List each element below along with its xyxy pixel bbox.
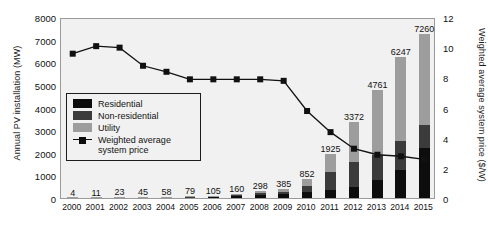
- x-tick-2003: 2003: [132, 202, 151, 212]
- y-tick-right: 2: [443, 163, 465, 174]
- bar-value-label: 11: [91, 188, 100, 198]
- bar-value-label: 385: [276, 179, 291, 189]
- bar-segment-non-residential: [208, 196, 219, 197]
- y-tick-left: 7000: [22, 35, 56, 46]
- bar-value-label: 45: [138, 187, 148, 197]
- legend-swatch-icon: [73, 123, 92, 132]
- bar-segment-utility: [372, 90, 383, 155]
- bar-segment-non-residential: [349, 162, 360, 187]
- y-axis-left-ticks: 010002000300040005000600070008000: [16, 0, 56, 236]
- x-tick-2004: 2004: [156, 202, 175, 212]
- x-tick-2001: 2001: [86, 202, 105, 212]
- bar-value-label: 6247: [391, 47, 411, 57]
- bar-2010: [302, 179, 313, 198]
- bar-segment-non-residential: [372, 155, 383, 180]
- legend-label: Utility: [98, 123, 120, 133]
- y-tick-left: 3000: [22, 126, 56, 137]
- bar-segment-residential: [395, 170, 406, 198]
- bar-segment-non-residential: [278, 192, 289, 195]
- legend-item-2: Utility: [73, 123, 195, 133]
- x-tick-2015: 2015: [414, 202, 433, 212]
- y-axis-right-ticks: 024681012: [443, 0, 469, 236]
- bar-segment-utility: [395, 57, 406, 141]
- x-tick-2007: 2007: [226, 202, 245, 212]
- y-tick-left: 2000: [22, 148, 56, 159]
- bar-segment-utility: [278, 189, 289, 191]
- legend-label: Weighted average system price: [98, 135, 195, 155]
- y-axis-right-title: Weighted average system price ($/W): [477, 20, 487, 190]
- legend-item-3: Weighted average system price: [73, 135, 195, 155]
- bar-value-label: 4: [70, 188, 75, 198]
- bar-value-label: 105: [206, 186, 221, 196]
- bar-segment-utility: [349, 122, 360, 162]
- x-axis-labels: 2000200120022003200420052006200720082009…: [60, 202, 435, 220]
- bar-segment-residential: [161, 197, 172, 198]
- x-tick-2002: 2002: [109, 202, 128, 212]
- x-tick-2005: 2005: [179, 202, 198, 212]
- x-tick-2000: 2000: [62, 202, 81, 212]
- legend-item-0: Residential: [73, 99, 195, 109]
- bar-segment-non-residential: [185, 197, 196, 198]
- y-tick-left: 1000: [22, 171, 56, 182]
- x-tick-2011: 2011: [320, 202, 338, 212]
- bar-segment-utility: [419, 34, 430, 125]
- bar-value-label: 160: [229, 184, 244, 194]
- bar-value-label: 1925: [321, 144, 341, 154]
- legend-swatch-icon: [73, 135, 92, 144]
- y-tick-left: 4000: [22, 103, 56, 114]
- bar-value-label: 3372: [344, 112, 364, 122]
- x-tick-2014: 2014: [390, 202, 409, 212]
- bar-segment-utility: [208, 196, 219, 197]
- chart-legend: ResidentialNon-residentialUtilityWeighte…: [66, 93, 201, 161]
- bar-segment-residential: [325, 190, 336, 198]
- bar-value-label: 58: [161, 187, 171, 197]
- bar-value-label: 852: [300, 169, 315, 179]
- legend-swatch-icon: [73, 99, 92, 108]
- bar-segment-residential: [138, 197, 149, 198]
- bar-segment-residential: [185, 197, 196, 198]
- bar-2014: [395, 57, 406, 198]
- bar-segment-utility: [231, 194, 242, 195]
- x-tick-2006: 2006: [203, 202, 222, 212]
- bar-value-label: 298: [253, 181, 268, 191]
- bar-segment-non-residential: [325, 172, 336, 190]
- bar-value-label: 4761: [367, 80, 387, 90]
- x-tick-2009: 2009: [273, 202, 292, 212]
- y-tick-right: 10: [443, 43, 465, 54]
- bar-segment-non-residential: [231, 195, 242, 196]
- bar-2013: [372, 90, 383, 198]
- y-tick-left: 6000: [22, 58, 56, 69]
- bar-segment-non-residential: [419, 125, 430, 148]
- y-tick-right: 0: [443, 194, 465, 205]
- y-tick-right: 4: [443, 133, 465, 144]
- y-tick-right: 12: [443, 13, 465, 24]
- bar-segment-residential: [231, 196, 242, 198]
- legend-swatch-icon: [73, 111, 92, 120]
- pv-installation-chart: Annual PV installation (MW) Weighted ave…: [0, 0, 488, 236]
- bar-segment-utility: [325, 154, 336, 171]
- bar-2011: [325, 154, 336, 198]
- bar-segment-utility: [255, 191, 266, 193]
- y-tick-right: 6: [443, 103, 465, 114]
- x-tick-2008: 2008: [250, 202, 269, 212]
- bar-segment-residential: [208, 197, 219, 198]
- bar-segment-residential: [349, 187, 360, 198]
- bar-2006: [208, 196, 219, 198]
- bar-2005: [185, 196, 196, 198]
- bar-2008: [255, 191, 266, 198]
- bar-segment-non-residential: [395, 141, 406, 170]
- x-tick-2012: 2012: [343, 202, 362, 212]
- x-tick-2013: 2013: [367, 202, 386, 212]
- bar-segment-utility: [302, 179, 313, 186]
- bar-2004: [161, 197, 172, 198]
- bar-segment-non-residential: [255, 193, 266, 195]
- bar-segment-residential: [255, 195, 266, 198]
- legend-label: Non-residential: [98, 111, 159, 121]
- bar-segment-residential: [372, 180, 383, 198]
- y-tick-left: 0: [22, 194, 56, 205]
- bar-2012: [349, 122, 360, 198]
- y-tick-left: 8000: [22, 13, 56, 24]
- bar-segment-non-residential: [302, 186, 313, 192]
- x-tick-2010: 2010: [297, 202, 316, 212]
- bar-segment-residential: [278, 194, 289, 198]
